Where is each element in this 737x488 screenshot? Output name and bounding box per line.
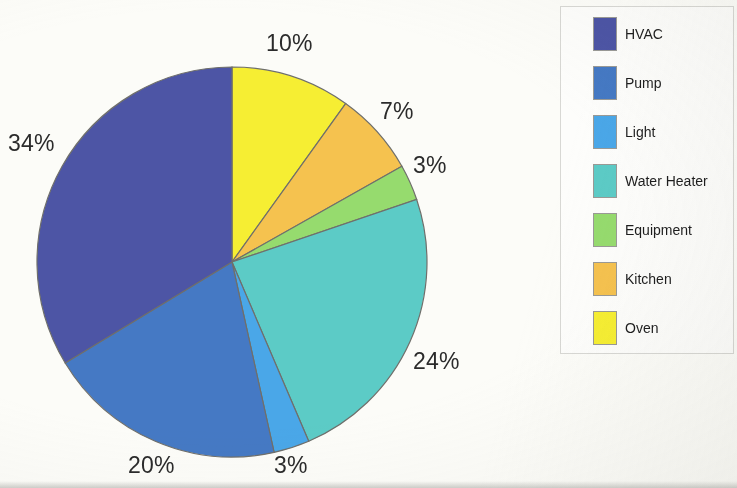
legend-swatch-icon (593, 311, 617, 345)
pie-chart-svg (0, 0, 500, 488)
legend-item-oven[interactable]: Oven (593, 311, 658, 345)
pie-percent-label: 3% (413, 152, 447, 179)
legend-item-label: HVAC (625, 26, 663, 42)
legend-item-light[interactable]: Light (593, 115, 655, 149)
legend-swatch-icon (593, 213, 617, 247)
legend-item-kitchen[interactable]: Kitchen (593, 262, 672, 296)
legend-item-label: Pump (625, 75, 662, 91)
legend-item-label: Kitchen (625, 271, 672, 287)
pie-slice-group (37, 67, 427, 457)
pie-percent-label: 7% (380, 98, 414, 125)
pie-percent-label: 10% (266, 30, 313, 57)
pie-percent-label: 34% (8, 130, 55, 157)
legend-item-water-heater[interactable]: Water Heater (593, 164, 708, 198)
pie-percent-label: 24% (413, 348, 460, 375)
legend-swatch-icon (593, 66, 617, 100)
legend-swatch-icon (593, 115, 617, 149)
legend-item-label: Water Heater (625, 173, 708, 189)
pie-percent-label: 20% (128, 452, 175, 479)
chart-canvas: 10%7%3%24%3%20%34% HVACPumpLightWater He… (0, 0, 737, 488)
legend-item-label: Oven (625, 320, 658, 336)
legend: HVACPumpLightWater HeaterEquipmentKitche… (560, 6, 734, 354)
legend-swatch-icon (593, 262, 617, 296)
legend-item-pump[interactable]: Pump (593, 66, 662, 100)
legend-swatch-icon (593, 164, 617, 198)
legend-item-equipment[interactable]: Equipment (593, 213, 692, 247)
legend-swatch-icon (593, 17, 617, 51)
page-edge-shadow (0, 481, 737, 488)
pie-chart (0, 0, 500, 488)
pie-percent-label: 3% (274, 452, 308, 479)
legend-item-label: Light (625, 124, 655, 140)
legend-item-label: Equipment (625, 222, 692, 238)
legend-item-hvac[interactable]: HVAC (593, 17, 663, 51)
